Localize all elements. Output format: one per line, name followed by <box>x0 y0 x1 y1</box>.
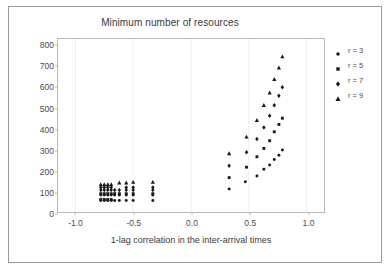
data-point <box>151 185 155 189</box>
x-axis-tick-label: -0.5 <box>126 218 141 228</box>
data-point <box>99 198 102 201</box>
x-axis-tick-label: 0.5 <box>244 218 256 228</box>
data-point <box>132 199 135 202</box>
square-marker-icon <box>333 60 343 70</box>
scatter-plot-canvas <box>58 39 324 212</box>
chart-legend: r = 3r = 5r = 7r = 9 <box>333 44 383 104</box>
x-axis-tick-mark <box>192 212 193 215</box>
data-point <box>268 164 271 167</box>
data-point <box>277 154 280 157</box>
data-point <box>262 103 266 107</box>
legend-label: r = 5 <box>348 61 363 70</box>
legend-label: r = 3 <box>348 46 363 55</box>
data-point <box>102 182 106 186</box>
y-axis-tick-mark <box>55 171 58 172</box>
data-point <box>281 85 285 89</box>
data-point <box>255 137 259 141</box>
data-point <box>244 180 247 183</box>
data-point <box>151 192 154 195</box>
data-point <box>262 168 265 171</box>
data-point <box>109 182 113 186</box>
y-axis-tick-label: 700 <box>40 61 54 71</box>
data-point <box>227 163 231 167</box>
x-axis-tick-label: 0.0 <box>186 218 198 228</box>
data-point <box>125 192 128 195</box>
data-point <box>131 185 135 189</box>
data-point <box>117 181 121 185</box>
y-axis-tick-mark <box>55 214 58 215</box>
legend-item-r-9[interactable]: r = 9 <box>333 89 383 101</box>
data-point <box>113 192 116 195</box>
x-axis-tick-mark <box>250 212 251 215</box>
data-point <box>124 181 128 185</box>
data-point <box>273 158 276 161</box>
data-point <box>124 185 128 189</box>
y-axis-tick-label: 500 <box>40 104 54 114</box>
data-point <box>280 54 284 58</box>
y-axis-tick-label: 0 <box>49 209 54 219</box>
data-point <box>125 199 128 202</box>
data-point <box>255 174 258 177</box>
data-point <box>118 192 121 195</box>
data-point <box>244 135 248 139</box>
circle-marker-icon <box>333 45 343 55</box>
data-point <box>228 188 231 191</box>
data-point <box>255 118 259 122</box>
data-point <box>277 123 280 126</box>
data-point <box>106 192 109 195</box>
scatter-series <box>99 54 285 186</box>
data-point <box>277 65 281 69</box>
y-axis-tick-label: 800 <box>40 40 54 50</box>
y-axis-tick-label: 600 <box>40 82 54 92</box>
y-axis-tick-label: 300 <box>40 146 54 156</box>
data-point <box>281 149 284 152</box>
data-point <box>273 130 276 133</box>
data-point <box>99 192 102 195</box>
data-point <box>118 188 122 192</box>
y-axis-tick-mark <box>55 150 58 151</box>
data-point <box>113 188 117 192</box>
figure-container: Minimum number of resources 010020030040… <box>0 0 391 271</box>
y-axis-tick-label: 200 <box>40 167 54 177</box>
y-axis-tick-mark <box>55 108 58 109</box>
data-point <box>273 103 277 107</box>
data-point <box>132 192 135 195</box>
legend-label: r = 9 <box>348 91 363 100</box>
data-point <box>106 182 110 186</box>
data-point <box>110 192 113 195</box>
data-point <box>268 113 272 117</box>
legend-item-r-5[interactable]: r = 5 <box>333 59 383 71</box>
x-axis-tick-label: -1.0 <box>68 218 83 228</box>
data-point <box>131 180 135 184</box>
y-axis-tick-label: 100 <box>40 188 54 198</box>
legend-item-r-7[interactable]: r = 7 <box>333 74 383 86</box>
data-point <box>255 155 258 158</box>
plot-area: 0100200300400500600700800-1.0-0.50.00.51… <box>57 38 325 213</box>
triangle-marker-icon <box>333 90 343 100</box>
x-axis-label: 1-lag correlation in the inter-arrival t… <box>57 235 325 245</box>
data-point <box>277 93 281 97</box>
y-axis-tick-mark <box>55 87 58 88</box>
data-point <box>245 150 249 154</box>
data-point <box>228 176 231 179</box>
data-point <box>99 182 103 186</box>
legend-label: r = 7 <box>348 76 363 85</box>
data-point <box>227 151 231 155</box>
data-point <box>272 77 276 81</box>
data-point <box>268 139 271 142</box>
y-axis-tick-mark <box>55 66 58 67</box>
data-point <box>110 198 113 201</box>
data-point <box>281 117 284 120</box>
x-axis-tick-mark <box>133 212 134 215</box>
data-point <box>151 180 155 184</box>
data-point <box>245 166 248 169</box>
legend-item-r-3[interactable]: r = 3 <box>333 44 383 56</box>
data-point <box>268 90 272 94</box>
data-point <box>151 199 154 202</box>
data-point <box>118 199 121 202</box>
data-point <box>103 198 106 201</box>
y-axis-tick-mark <box>55 45 58 46</box>
x-axis-tick-label: 1.0 <box>303 218 315 228</box>
y-axis-tick-mark <box>55 192 58 193</box>
data-point <box>262 147 265 150</box>
